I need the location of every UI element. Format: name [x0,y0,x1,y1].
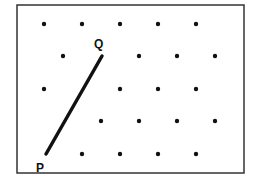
grid-dot [118,152,122,156]
point-label-q: Q [94,38,103,50]
grid-dot [156,22,160,26]
grid-dot [175,119,179,123]
grid-dot [213,119,217,123]
grid-dot [80,22,84,26]
grid-dot [156,87,160,91]
grid-dot [118,87,122,91]
dot-grid-figure [0,0,254,183]
point-label-p: P [36,162,44,174]
grid-dot [194,87,198,91]
grid-dot [194,22,198,26]
grid-dot [99,119,103,123]
segment-pq [46,56,102,154]
grid-dots [42,22,217,156]
grid-dot [118,22,122,26]
grid-dot [213,54,217,58]
grid-dot [137,54,141,58]
grid-dot [137,119,141,123]
grid-dot [194,152,198,156]
grid-dot [42,22,46,26]
grid-dot [156,152,160,156]
grid-dot [42,87,46,91]
grid-dot [61,54,65,58]
grid-dot [80,152,84,156]
grid-dot [175,54,179,58]
